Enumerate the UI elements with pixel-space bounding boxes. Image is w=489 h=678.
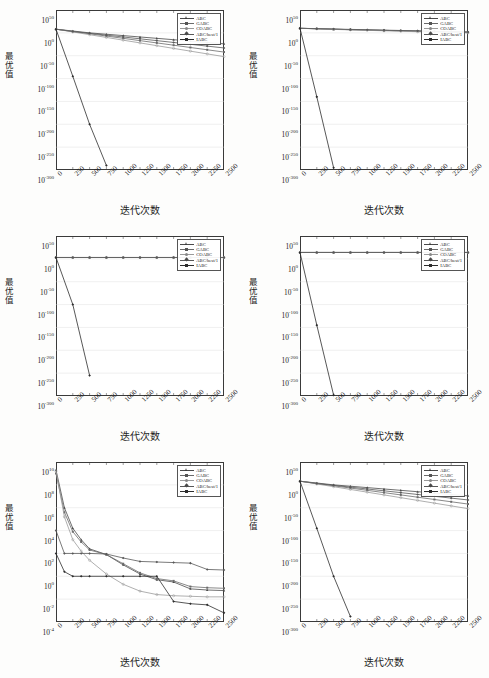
series-marker (72, 552, 75, 555)
x-axis-ticks: 02505007501000125015001750200022502500 (300, 398, 468, 432)
y-axis-tick: 10-100 (281, 536, 298, 545)
legend-item: IABC (424, 489, 462, 494)
x-axis-tick: 0 (56, 622, 64, 630)
legend-marker-icon (424, 478, 438, 483)
series-marker (189, 586, 191, 588)
y-axis-tick: 10-50 (284, 513, 298, 522)
series-marker (55, 552, 58, 555)
y-axis-tick: 10-250 (281, 378, 298, 387)
series-marker (189, 602, 192, 605)
legend-marker-icon (180, 484, 194, 489)
x-axis-tick: 0 (56, 396, 64, 404)
y-axis-tick: 100 (288, 264, 298, 273)
legend-marker-icon (424, 242, 438, 247)
y-axis-tick: 10-50 (40, 61, 54, 70)
y-axis-tick: 10-100 (37, 84, 54, 93)
y-axis-tick: 100 (44, 264, 54, 273)
legend-marker-icon (180, 26, 194, 31)
series-marker (88, 374, 91, 377)
series-marker (88, 575, 91, 578)
series-marker (88, 123, 91, 126)
legend-label: IABC (440, 489, 451, 494)
legend-marker-icon (180, 32, 194, 37)
series-marker (316, 324, 319, 327)
y-axis-tick: 1050 (286, 241, 298, 250)
series-marker (105, 164, 108, 167)
series-marker (316, 96, 319, 99)
legend-marker-icon (180, 263, 194, 268)
legend-marker-icon (180, 16, 194, 21)
legend-label: IABC (196, 263, 207, 268)
series-marker (349, 615, 352, 618)
legend-marker-icon (180, 21, 194, 26)
y-axis-tick: 10-250 (281, 152, 298, 161)
legend-marker-icon (424, 468, 438, 473)
figure-grid: 最优值105010010-5010-10010-15010-20010-2501… (0, 0, 489, 678)
y-axis-ticks: 105010010-5010-10010-15010-20010-25010-3… (252, 462, 298, 622)
y-axis-tick: 10-250 (37, 152, 54, 161)
y-axis-tick: 10-300 (281, 627, 298, 636)
series-marker (206, 49, 208, 51)
legend-marker-icon (424, 252, 438, 257)
series-marker (80, 575, 83, 578)
legend-marker-icon (424, 484, 438, 489)
y-axis-tick: 10-4 (42, 627, 54, 636)
x-axis-tick: 2500 (468, 614, 484, 630)
y-axis-tick: 104 (44, 536, 54, 545)
x-axis-tick: 0 (300, 170, 308, 178)
series-marker (139, 560, 142, 563)
x-axis-ticks: 02505007501000125015001750200022502500 (300, 624, 468, 658)
series-marker (416, 493, 419, 496)
series-marker (332, 575, 335, 578)
legend: ABCGABCCOABCABC/best/1IABC (421, 239, 465, 271)
legend-marker-icon (180, 242, 194, 247)
legend-label: IABC (440, 263, 451, 268)
legend-label: IABC (196, 489, 207, 494)
y-axis-tick: 100 (44, 38, 54, 47)
y-axis-tick: 10-50 (284, 287, 298, 296)
legend-marker-icon (424, 258, 438, 263)
legend-marker-icon (180, 37, 194, 42)
series-marker (156, 39, 159, 42)
series-marker (122, 557, 125, 560)
series-marker (122, 563, 124, 565)
y-axis-tick: 10-150 (37, 107, 54, 116)
series-marker (223, 587, 225, 589)
legend-marker-icon (180, 468, 194, 473)
y-axis-tick: 10-100 (37, 310, 54, 319)
series-marker (156, 561, 159, 564)
legend-item: IABC (180, 263, 218, 268)
y-axis-tick: 100 (288, 38, 298, 47)
panel-middle-left: 最优值105010010-5010-10010-15010-20010-2501… (0, 226, 244, 452)
series-marker (316, 527, 319, 530)
y-axis-ticks: 105010010-5010-10010-15010-20010-25010-3… (252, 10, 298, 170)
panel-bottom-left: 最优值101010810610410210010-210-4ABCGABCCOA… (0, 452, 244, 678)
y-axis-tick: 106 (44, 513, 54, 522)
y-axis-tick: 10-150 (281, 107, 298, 116)
legend-label: IABC (196, 37, 207, 42)
y-axis-tick: 10-150 (37, 333, 54, 342)
legend-marker-icon (424, 489, 438, 494)
series-marker (332, 166, 335, 169)
plot-area: ABCGABCCOABCABC/best/1IABC (300, 236, 468, 396)
series-marker (206, 604, 209, 607)
x-axis-label: 迭代次数 (300, 202, 468, 217)
series-marker (172, 561, 175, 564)
legend-marker-icon (424, 21, 438, 26)
x-axis-label: 迭代次数 (56, 202, 224, 217)
legend-marker-icon (180, 247, 194, 252)
series-line (300, 481, 350, 616)
x-axis-tick: 2500 (224, 614, 240, 630)
legend-marker-icon (180, 252, 194, 257)
legend-item: IABC (180, 37, 218, 42)
y-axis-tick: 10-250 (37, 378, 54, 387)
y-axis-tick: 10-250 (281, 604, 298, 613)
y-axis-ticks: 105010010-5010-10010-15010-20010-25010-3… (252, 236, 298, 396)
series-marker (223, 51, 225, 53)
series-marker (400, 494, 402, 496)
y-axis-tick: 10-50 (40, 287, 54, 296)
series-marker (206, 45, 209, 48)
panel-top-left: 最优值105010010-5010-10010-15010-20010-2501… (0, 0, 244, 226)
plot-area: ABCGABCCOABCABC/best/1IABC (56, 236, 224, 396)
y-axis-tick: 10-200 (37, 356, 54, 365)
